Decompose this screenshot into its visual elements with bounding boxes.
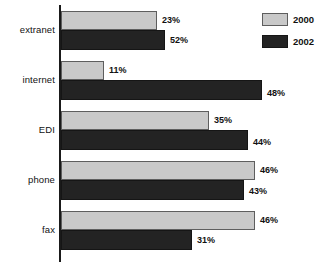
legend-label-2002: 2002 [293,36,314,47]
bar-chart: extranet internet EDI phone fax 23% 52% … [0,0,331,267]
bar-value-fax-2000: 46% [260,215,278,225]
bar-phone-2002 [61,180,244,200]
legend-entry-2002: 2002 [262,34,328,51]
bar-fax-2000 [61,211,255,230]
bar-value-internet-2000: 11% [109,65,127,75]
bar-internet-2002 [61,80,262,100]
bar-edi-2002 [61,130,248,150]
bar-value-edi-2000: 35% [214,115,232,125]
bar-value-fax-2002: 31% [197,235,215,245]
bar-extranet-2000 [61,11,157,30]
bar-value-edi-2002: 44% [253,137,271,147]
bar-value-extranet-2000: 23% [162,15,180,25]
category-label-text: EDI [1,124,55,135]
bar-value-phone-2000: 46% [260,165,278,175]
bar-value-phone-2002: 43% [249,186,267,196]
legend-swatch-icon-2002 [262,35,288,48]
bar-internet-2000 [61,61,104,80]
bar-value-extranet-2002: 52% [170,35,188,45]
category-label-text: extranet [1,24,55,35]
bar-value-internet-2002: 48% [267,88,285,98]
category-label-text: fax [1,224,55,235]
legend-swatch-icon-2000 [262,13,288,26]
bar-edi-2000 [61,111,209,130]
bar-fax-2002 [61,230,192,250]
legend-entry-2000: 2000 [262,12,328,29]
bar-phone-2000 [61,161,255,180]
category-label-text: internet [1,74,55,85]
chart-legend: 2000 2002 [262,12,328,56]
bar-extranet-2002 [61,30,165,50]
category-label-text: phone [1,174,55,185]
legend-label-2000: 2000 [293,14,314,25]
